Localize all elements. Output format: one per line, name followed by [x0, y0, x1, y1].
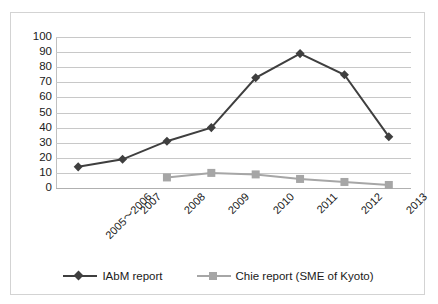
series-line	[78, 54, 389, 167]
y-tick-label: 40	[18, 122, 52, 134]
legend-item-chie-report[interactable]: Chie report (SME of Kyoto)	[197, 270, 374, 282]
gridline	[56, 188, 411, 189]
x-tick-label: 2012	[360, 191, 385, 216]
y-tick-label: 10	[18, 167, 52, 179]
y-tick-label: 60	[18, 91, 52, 103]
legend-label: Chie report (SME of Kyoto)	[236, 270, 374, 282]
data-point-marker	[340, 178, 348, 186]
chart-frame: 1009080706050403020100 2005〜200620072008…	[10, 12, 425, 295]
data-point-marker	[118, 155, 127, 164]
data-point-marker	[163, 173, 171, 181]
y-tick-label: 30	[18, 137, 52, 149]
y-tick-label: 0	[18, 182, 52, 194]
series-layer	[56, 37, 411, 188]
plot-area	[56, 37, 411, 188]
data-point-marker	[74, 162, 83, 171]
data-point-marker	[296, 49, 305, 58]
legend-label: IAbM report	[102, 270, 162, 282]
y-tick-label: 80	[18, 61, 52, 73]
data-point-marker	[162, 137, 171, 146]
x-tick-label: 2010	[271, 191, 296, 216]
x-tick-label: 2013	[404, 191, 429, 216]
legend-item-iabm-report[interactable]: IAbM report	[63, 270, 162, 282]
y-tick-label: 50	[18, 107, 52, 119]
legend-marker-square-icon	[197, 270, 231, 282]
legend-marker-diamond-icon	[63, 270, 97, 282]
data-point-marker	[385, 181, 393, 189]
y-tick-label: 100	[18, 31, 52, 43]
y-tick-label: 90	[18, 46, 52, 58]
series-line	[167, 173, 389, 185]
x-tick-label: 2011	[315, 191, 340, 216]
x-tick-label: 2008	[182, 191, 207, 216]
data-point-marker	[296, 175, 304, 183]
chart-legend: IAbM report Chie report (SME of Kyoto)	[11, 265, 426, 287]
x-tick-label: 2009	[226, 191, 251, 216]
x-axis-tick-labels: 2005〜20062007200820092010201120122013	[56, 191, 411, 261]
y-tick-label: 20	[18, 152, 52, 164]
data-point-marker	[252, 170, 260, 178]
y-axis-tick-labels: 1009080706050403020100	[15, 37, 52, 188]
data-point-marker	[207, 169, 215, 177]
y-tick-label: 70	[18, 76, 52, 88]
